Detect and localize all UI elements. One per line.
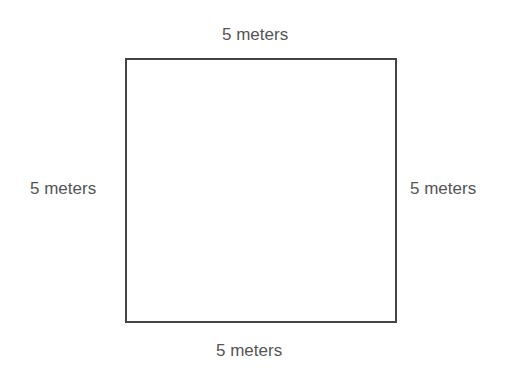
right-side-label: 5 meters (410, 179, 476, 199)
left-side-label: 5 meters (30, 179, 96, 199)
bottom-side-label: 5 meters (216, 341, 282, 361)
top-side-label: 5 meters (222, 25, 288, 45)
square-shape (125, 58, 397, 323)
